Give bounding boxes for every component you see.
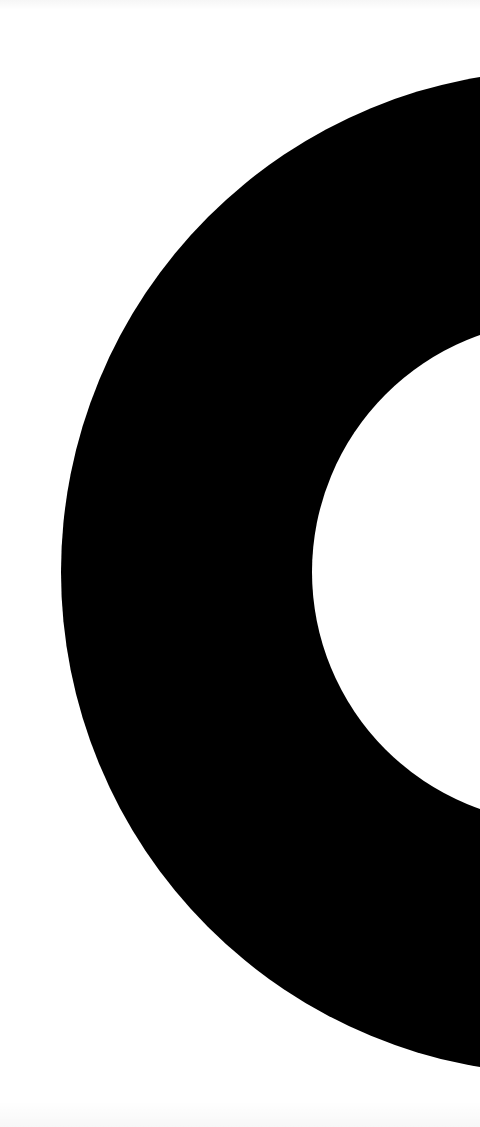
ring-shape [0,0,480,1127]
image-canvas: Black Ring (Annulus) on White Background… [0,0,480,1127]
annulus-fill [0,0,480,1127]
